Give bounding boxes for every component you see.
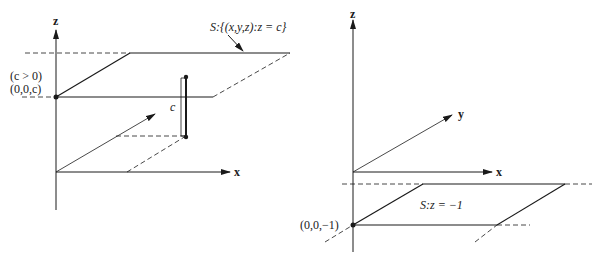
projection-dash [127, 136, 186, 172]
z-axis-label: z [53, 14, 59, 28]
y-axis-label: y [458, 107, 464, 121]
x-axis-label: x [234, 165, 240, 179]
plane-right-edge [497, 184, 565, 225]
x-axis-label: x [496, 165, 502, 179]
y-axis [56, 114, 155, 172]
right-figure: z x y S:z = −1 (0,0,−1) [300, 7, 592, 252]
z-axis-label: z [350, 7, 356, 21]
plane-left-edge [56, 53, 130, 97]
height-bottom-point [184, 135, 188, 139]
plane-right-dash [475, 225, 497, 242]
diagram-canvas: z x c (c > 0) (0,0,c) S:{(x,y,z):z = c} … [0, 0, 602, 262]
plane-right-dash [213, 53, 290, 97]
height-top-point [184, 75, 188, 79]
plane-label-pointer [228, 35, 243, 51]
plane-label: S:{(x,y,z):z = c} [210, 20, 287, 34]
y-axis [353, 115, 452, 172]
left-figure: z x c (c > 0) (0,0,c) S:{(x,y,z):z = c} [10, 14, 290, 210]
point-label: (0,0,−1) [300, 218, 339, 232]
point-label: (0,0,c) [10, 82, 41, 96]
point-0-0-neg1 [351, 223, 356, 228]
plane-left-edge [353, 184, 423, 225]
plane-label: S:z = −1 [420, 198, 463, 212]
height-label: c [170, 100, 176, 114]
condition-label: (c > 0) [10, 69, 42, 83]
point-0-0-c [54, 95, 59, 100]
